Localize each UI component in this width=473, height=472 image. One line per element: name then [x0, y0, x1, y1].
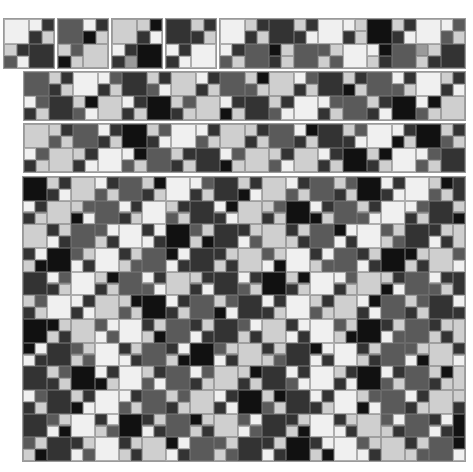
small-square: [405, 402, 417, 414]
small-square: [36, 160, 48, 172]
small-square: [154, 414, 166, 426]
small-square: [428, 108, 440, 120]
small-square: [298, 236, 310, 248]
small-square: [417, 201, 429, 213]
small-square: [98, 84, 110, 96]
big-square: [381, 437, 405, 461]
small-square: [369, 437, 381, 449]
small-square: [416, 56, 428, 68]
small-square: [183, 96, 195, 108]
small-square: [134, 148, 146, 160]
small-square: [131, 343, 143, 355]
small-square: [238, 284, 250, 296]
small-square: [214, 449, 226, 461]
small-square: [96, 19, 109, 31]
small-square: [274, 402, 286, 414]
small-square: [154, 272, 166, 284]
small-square: [346, 426, 358, 438]
small-square: [23, 248, 35, 260]
small-square: [250, 414, 262, 426]
small-square: [23, 295, 35, 307]
big-square: [214, 224, 238, 248]
small-square: [274, 390, 286, 402]
small-square: [269, 56, 281, 68]
small-square: [166, 437, 178, 449]
small-square: [346, 378, 358, 390]
small-square: [393, 378, 405, 390]
small-square: [202, 236, 214, 248]
small-square: [226, 248, 238, 260]
small-square: [95, 319, 107, 331]
big-square: [171, 72, 196, 96]
small-square: [269, 44, 281, 56]
small-square: [142, 319, 154, 331]
big-square: [23, 319, 47, 343]
small-square: [453, 72, 465, 84]
small-square: [429, 426, 441, 438]
small-square: [178, 260, 190, 272]
small-square: [47, 331, 59, 343]
small-square: [298, 177, 310, 189]
big-square: [73, 124, 98, 148]
small-square: [166, 56, 179, 68]
small-square: [318, 148, 330, 160]
big-square: [190, 390, 214, 414]
small-square: [322, 307, 334, 319]
small-square: [147, 72, 159, 84]
small-square: [59, 224, 71, 236]
small-square: [274, 248, 286, 260]
small-square: [202, 319, 214, 331]
big-square: [405, 272, 429, 296]
small-square: [83, 449, 95, 461]
small-square: [404, 72, 416, 84]
big-square: [119, 414, 143, 438]
small-square: [61, 84, 73, 96]
small-square: [59, 366, 71, 378]
small-square: [310, 390, 322, 402]
big-square: [166, 366, 190, 390]
small-square: [245, 124, 257, 136]
small-square: [71, 390, 83, 402]
small-square: [23, 449, 35, 461]
small-square: [274, 449, 286, 461]
small-square: [119, 201, 131, 213]
small-square: [23, 260, 35, 272]
small-square: [381, 319, 393, 331]
small-square: [131, 248, 143, 260]
small-square: [355, 84, 367, 96]
small-square: [369, 355, 381, 367]
big-square: [214, 414, 238, 438]
big-square: [122, 124, 147, 148]
small-square: [71, 449, 83, 461]
big-square: [119, 272, 143, 296]
small-square: [59, 284, 71, 296]
small-square: [322, 248, 334, 260]
small-square: [95, 414, 107, 426]
big-square: [310, 224, 334, 248]
small-square: [35, 201, 47, 213]
small-square: [441, 31, 453, 43]
small-square: [298, 224, 310, 236]
small-square: [369, 390, 381, 402]
small-square: [405, 260, 417, 272]
small-square: [220, 44, 232, 56]
big-square: [119, 177, 143, 201]
small-square: [355, 124, 367, 136]
small-square: [393, 366, 405, 378]
small-square: [202, 426, 214, 438]
small-square: [71, 248, 83, 260]
small-square: [107, 331, 119, 343]
small-square: [281, 56, 293, 68]
small-square: [24, 108, 36, 120]
small-square: [298, 378, 310, 390]
small-square: [183, 160, 195, 172]
small-square: [71, 201, 83, 213]
small-square: [405, 390, 417, 402]
big-square: [119, 224, 143, 248]
small-square: [142, 272, 154, 284]
small-square: [226, 437, 238, 449]
small-square: [346, 272, 358, 284]
small-square: [23, 390, 35, 402]
small-square: [262, 355, 274, 367]
big-square: [381, 201, 405, 225]
